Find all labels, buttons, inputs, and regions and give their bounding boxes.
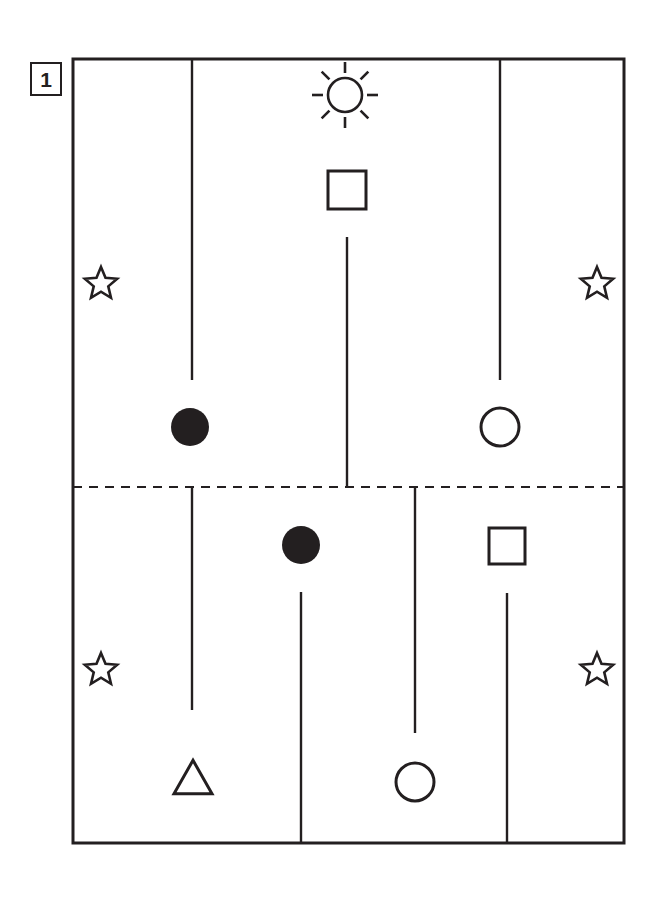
figure-canvas bbox=[0, 0, 661, 902]
circle-filled-top-left bbox=[171, 408, 209, 446]
panel-label-box: 1 bbox=[30, 62, 62, 96]
panel-label-text: 1 bbox=[40, 69, 52, 90]
diagram-frame bbox=[73, 59, 624, 843]
circle-filled-bottom-center bbox=[282, 526, 320, 564]
diagram-svg bbox=[0, 0, 661, 902]
